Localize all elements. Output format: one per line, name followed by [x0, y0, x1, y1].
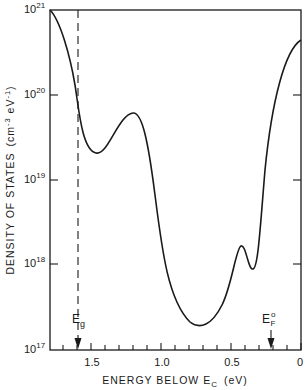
- x-axis-ticks: [63, 343, 301, 350]
- x-tick-label-0.5: 0.5: [224, 356, 239, 368]
- x-tick-label-1.5: 1.5: [84, 356, 99, 368]
- x-tick-label-1.0: 1.0: [154, 356, 169, 368]
- y-tick-label-1e19: 1019: [24, 171, 46, 185]
- ef-label: EoF: [262, 310, 276, 328]
- x-axis-title: ENERGY BELOW EC(eV): [102, 374, 248, 389]
- y-tick-label-1e17: 1017: [24, 341, 46, 355]
- y-axis-title: DENSITY OF STATES(cm-3 eV-1): [3, 85, 16, 274]
- eg-arrow-icon: [75, 338, 82, 349]
- x-tick-label-0: 0: [297, 356, 303, 368]
- y-axis-ticks: [50, 95, 301, 264]
- y-tick-label-1e20: 1020: [24, 86, 46, 100]
- y-tick-label-1e18: 1018: [24, 255, 46, 269]
- dos-curve: [50, 10, 301, 326]
- density-of-states-chart: 1021 1020 1019 1018 1017 1.5 1.0 0.5 0 E…: [0, 0, 308, 390]
- y-tick-label-1e21: 1021: [24, 1, 46, 15]
